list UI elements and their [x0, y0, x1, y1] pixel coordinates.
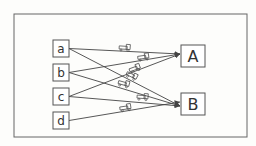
svg-text:b: b [57, 66, 65, 80]
diagram-frame [14, 14, 247, 137]
svg-text:a: a [57, 42, 64, 56]
truck-icon [119, 44, 130, 52]
truck-icon [128, 63, 141, 73]
source-node-a: a [53, 40, 69, 57]
target-node-A: A [181, 45, 205, 67]
edge-c-A [69, 54, 180, 97]
edge-d-B [69, 102, 180, 121]
source-node-d: d [53, 112, 69, 129]
svg-text:B: B [188, 95, 199, 114]
flow-diagram: abcdAB [0, 0, 256, 146]
source-node-c: c [53, 88, 69, 105]
truck-icon [137, 93, 148, 101]
svg-text:A: A [188, 47, 199, 66]
svg-text:d: d [57, 114, 65, 128]
svg-text:c: c [58, 90, 65, 104]
truck-icon [118, 79, 130, 89]
source-node-b: b [53, 64, 69, 81]
target-node-B: B [181, 93, 205, 115]
